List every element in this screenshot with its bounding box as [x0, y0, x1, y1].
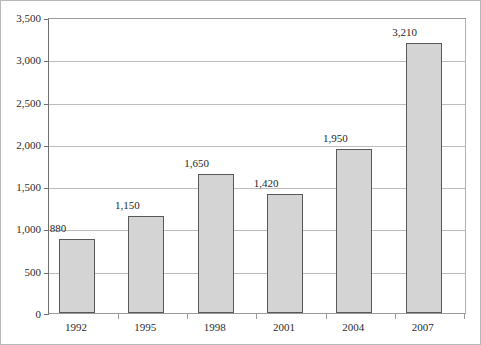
y-axis-tick-label: 3,000	[1, 55, 41, 66]
plot-area	[48, 18, 466, 314]
gridline-3000	[49, 61, 465, 62]
y-axis-tick-label: 2,000	[1, 139, 41, 150]
bar-1992	[59, 239, 95, 313]
x-axis-tick	[187, 314, 188, 319]
x-axis-label-2004: 2004	[318, 321, 388, 334]
y-axis-tick	[44, 146, 49, 147]
y-axis-tick-label: 3,500	[1, 13, 41, 24]
gridline-1000	[49, 230, 465, 231]
x-axis-label-2007: 2007	[388, 321, 458, 334]
y-axis-tick-label: 1,500	[1, 182, 41, 193]
x-axis-tick	[326, 314, 327, 319]
bar-value-label-2007: 3,210	[370, 27, 440, 38]
bar-value-label-1992: 880	[23, 223, 93, 234]
y-axis-tick	[44, 314, 49, 315]
bar-2004	[336, 149, 372, 313]
bar-1998	[198, 174, 234, 313]
y-axis-tick-label: 500	[1, 266, 41, 277]
y-axis-tick	[44, 273, 49, 274]
bar-value-label-1998: 1,650	[162, 158, 232, 169]
bar-value-label-2001: 1,420	[231, 178, 301, 189]
x-axis-tick	[118, 314, 119, 319]
x-axis-label-1995: 1995	[110, 321, 180, 334]
x-axis-label-1992: 1992	[41, 321, 111, 334]
bar-value-label-1995: 1,150	[92, 200, 162, 211]
y-axis-tick-label: 0	[1, 309, 41, 320]
y-axis-tick	[44, 61, 49, 62]
y-axis-tick	[44, 188, 49, 189]
gridline-2500	[49, 104, 465, 105]
y-axis-tick-label: 2,500	[1, 97, 41, 108]
y-axis-tick	[44, 104, 49, 105]
x-axis-label-1998: 1998	[180, 321, 250, 334]
y-axis-tick	[44, 19, 49, 20]
x-axis-tick	[395, 314, 396, 319]
x-axis-tick	[464, 314, 465, 319]
bar-2001	[267, 194, 303, 313]
bar-value-label-2004: 1,950	[300, 133, 370, 144]
gridline-500	[49, 273, 465, 274]
bar-1995	[128, 216, 164, 313]
bar-2007	[406, 43, 442, 313]
x-axis-tick	[256, 314, 257, 319]
bar-chart: 3,500 3,000 2,500 2,000 1,500 1,000 500 …	[0, 0, 481, 345]
gridline-2000	[49, 146, 465, 147]
x-axis-label-2001: 2001	[249, 321, 319, 334]
